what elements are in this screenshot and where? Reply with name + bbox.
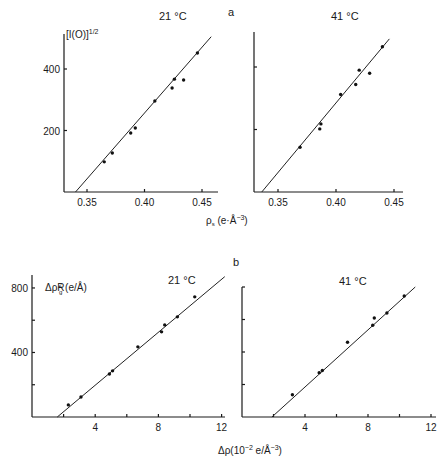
data-point (403, 294, 406, 297)
x-tick-label: 0.40 (135, 197, 155, 208)
x-tick-label: 0.45 (384, 197, 404, 208)
data-point (111, 369, 114, 372)
data-point (381, 45, 384, 48)
fit-line (57, 277, 224, 417)
x-axis-label-a: ρs (e·Å−3) (206, 214, 248, 227)
data-point (317, 371, 320, 374)
figure: a b 0.350.400.452004000.350.400.45481240… (0, 0, 447, 466)
data-point (170, 86, 173, 89)
x-tick-label: 0.35 (77, 197, 97, 208)
data-point (319, 122, 322, 125)
data-point (354, 83, 357, 86)
y-tick-label: 200 (43, 126, 60, 137)
plot-a-right: 0.350.400.45 (254, 32, 404, 208)
fit-line (76, 37, 212, 192)
data-point (103, 160, 106, 163)
data-point (291, 393, 294, 396)
y-tick-label: 400 (43, 64, 60, 75)
data-point (373, 316, 376, 319)
data-point (67, 403, 70, 406)
plot-a-left: 0.350.400.45200400 (43, 34, 218, 208)
data-point (173, 77, 176, 80)
chart-title-b-left: 21 °C (168, 274, 196, 286)
x-tick-label: 12 (425, 422, 437, 433)
data-point (108, 372, 111, 375)
panel-b-label: b (233, 256, 239, 268)
data-point (318, 127, 321, 130)
data-point (163, 323, 166, 326)
data-point (134, 126, 137, 129)
data-point (196, 51, 199, 54)
x-tick-label: 8 (156, 422, 162, 433)
data-point (79, 395, 82, 398)
chart-title-b-right: 41 °C (339, 275, 367, 287)
data-point (193, 295, 196, 298)
x-tick-label: 4 (302, 422, 308, 433)
data-point (182, 78, 185, 81)
data-point (129, 131, 132, 134)
y-axis-label-a: [I(O)]1/2 (66, 28, 99, 40)
y-tick-label: 400 (11, 347, 28, 358)
data-point (385, 311, 388, 314)
data-point (368, 72, 371, 75)
x-axis-label-b: Δρ(10−2 e/Å−3) (218, 444, 282, 456)
data-point (136, 345, 139, 348)
x-tick-label: 4 (92, 422, 98, 433)
data-point (111, 151, 114, 154)
x-tick-label: 12 (216, 422, 228, 433)
panel-a-label: a (228, 6, 235, 18)
chart-title-a-left: 21 °C (159, 10, 187, 22)
x-tick-label: 8 (365, 422, 371, 433)
data-point (298, 146, 301, 149)
chart-title-a-right: 41 °C (331, 10, 359, 22)
data-point (346, 341, 349, 344)
y-axis-label-b: ΔρR2g (e/Å) (45, 281, 87, 295)
x-tick-label: 0.45 (192, 197, 212, 208)
data-point (176, 315, 179, 318)
data-point (160, 330, 163, 333)
y-tick-label: 800 (11, 283, 28, 294)
fit-line (262, 39, 390, 192)
plot-b-left: 4812400800 (11, 275, 227, 433)
data-point (371, 323, 374, 326)
x-tick-label: 0.35 (268, 197, 288, 208)
plot-b-right: 4812 (242, 287, 437, 433)
data-point (339, 93, 342, 96)
data-point (321, 369, 324, 372)
data-point (153, 99, 156, 102)
data-point (358, 68, 361, 71)
fit-line (272, 287, 415, 417)
x-tick-label: 0.40 (326, 197, 346, 208)
